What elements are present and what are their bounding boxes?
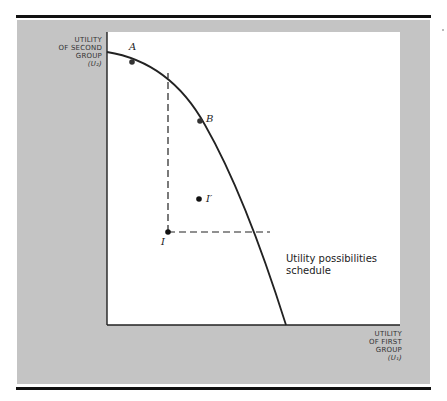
x-axis-label-line: (U₁) [340, 354, 402, 362]
point-b [197, 118, 203, 124]
point-a-label: A [129, 41, 136, 52]
y-axis-label-line: UTILITY [40, 36, 102, 44]
point-i-label: I [161, 236, 165, 247]
curve-label-line: Utility possibilities [286, 253, 377, 265]
point-i-prime [196, 196, 202, 202]
page-mark [442, 29, 444, 31]
bottom-rule [16, 387, 431, 390]
x-axis-label-line: OF FIRST [340, 338, 402, 346]
point-a [129, 59, 135, 65]
x-axis-label-line: UTILITY [340, 330, 402, 338]
x-axis-label-line: GROUP [340, 346, 402, 354]
y-axis-label: UTILITY OF SECOND GROUP (U₂) [40, 36, 102, 68]
point-b-label: B [206, 113, 213, 124]
utility-possibilities-curve [107, 52, 286, 325]
point-i [165, 229, 171, 235]
y-axis-label-line: GROUP [40, 52, 102, 60]
y-axis-label-line: (U₂) [40, 60, 102, 68]
y-axis-label-line: OF SECOND [40, 44, 102, 52]
x-axis-label: UTILITY OF FIRST GROUP (U₁) [340, 330, 402, 362]
curve-label-line: schedule [286, 265, 377, 277]
point-i-prime-label: I′ [206, 193, 212, 204]
curve-label: Utility possibilities schedule [286, 253, 377, 277]
